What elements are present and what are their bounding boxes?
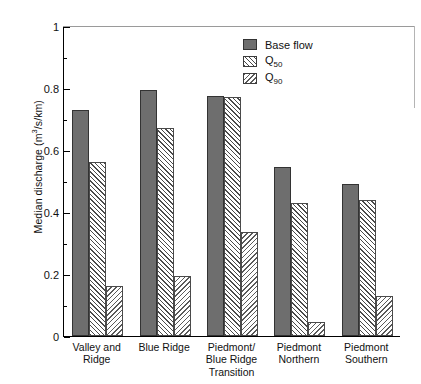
x-axis-label-line: Piedmont: [325, 341, 408, 353]
x-axis-label-line: Ridge: [55, 353, 138, 365]
bar-q50: [89, 162, 106, 336]
bar-q90: [241, 232, 258, 336]
legend-swatch-q50: [243, 56, 257, 67]
x-axis-label-line: Southern: [325, 353, 408, 365]
y-tick-mark: [64, 337, 70, 338]
bar-q50: [291, 203, 308, 336]
bar-q90: [376, 296, 393, 336]
bar-base-flow: [342, 184, 359, 336]
y-axis-title: Median discharge (m3/s/km): [30, 67, 44, 267]
legend-swatch-base-flow: [243, 39, 257, 50]
legend-label-subscript: 50: [274, 60, 283, 69]
bar-q50: [157, 128, 174, 336]
bar-chart-figure: Median discharge (m3/s/km) 00.20.40.60.8…: [0, 0, 421, 384]
y-tick-label: 1: [53, 21, 59, 33]
legend-label-subscript: 90: [274, 77, 283, 86]
y-tick-label: 0.6: [44, 145, 59, 157]
x-axis-label-line: Transition: [190, 366, 273, 378]
legend-label: Base flow: [265, 39, 313, 51]
bar-q90: [174, 276, 191, 336]
bar-base-flow: [207, 96, 224, 336]
bar-q50: [359, 200, 376, 336]
legend-swatch-q90: [243, 73, 257, 84]
legend-item: Q90: [243, 70, 313, 87]
bars-container: [64, 27, 400, 336]
x-axis-label: PiedmontSouthern: [325, 341, 408, 366]
legend-label: Q90: [265, 71, 282, 86]
right-edge-rule: [414, 26, 415, 108]
bar-base-flow: [140, 90, 157, 336]
legend-item: Base flow: [243, 36, 313, 53]
bar-q90: [106, 286, 123, 336]
y-tick-label: 0.2: [44, 269, 59, 281]
bar-base-flow: [274, 167, 291, 336]
bar-q50: [224, 97, 241, 336]
legend-label: Q50: [265, 54, 282, 69]
y-tick-label: 0.4: [44, 207, 59, 219]
chart-legend: Base flowQ50Q90: [243, 36, 313, 87]
y-tick-label: 0.8: [44, 83, 59, 95]
bar-group: [334, 27, 401, 336]
plot-area: 00.20.40.60.81: [63, 27, 400, 337]
legend-item: Q50: [243, 53, 313, 70]
bar-group: [131, 27, 198, 336]
bar-q90: [308, 322, 325, 336]
bar-group: [64, 27, 131, 336]
bar-base-flow: [72, 110, 89, 336]
